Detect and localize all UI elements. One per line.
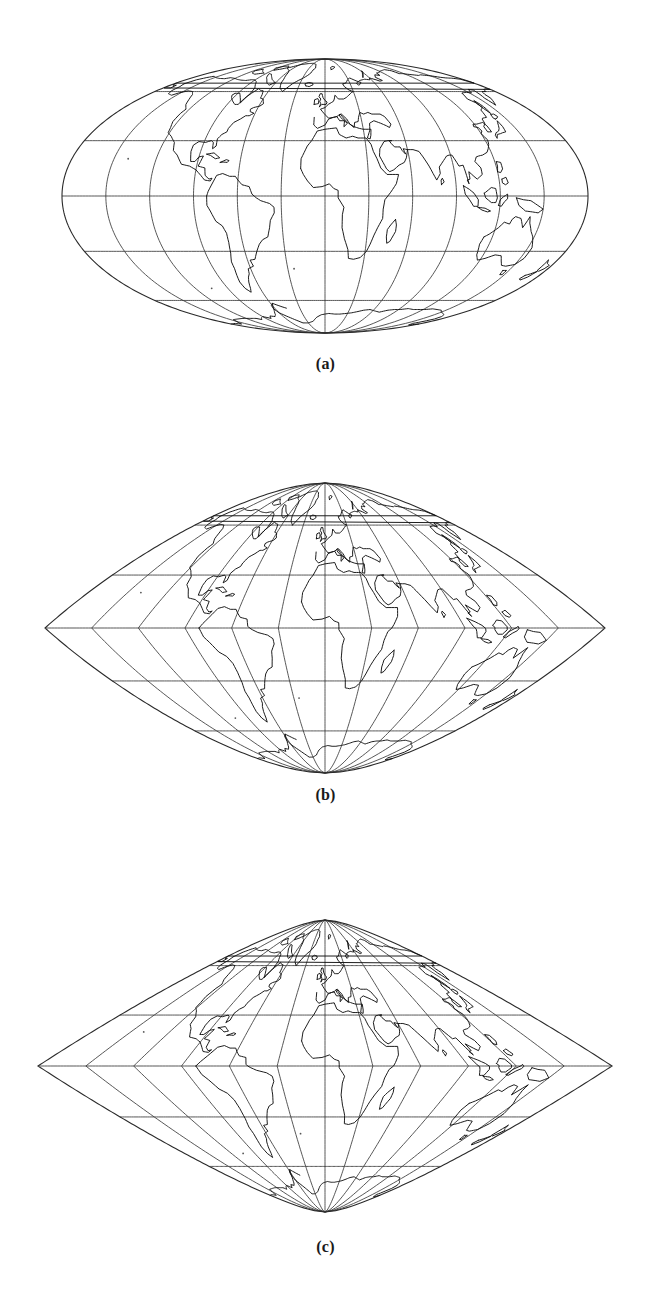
map-c-coastline-16 xyxy=(483,1076,493,1080)
map-b-coastline-22 xyxy=(456,648,528,696)
map-c-coastline-26 xyxy=(443,1050,447,1056)
map-c-speck-1 xyxy=(300,1133,302,1135)
map-b-coastlines xyxy=(187,491,546,760)
map-a-speck-1 xyxy=(293,268,295,270)
world-map-b xyxy=(0,440,651,795)
map-b-speck-2 xyxy=(234,717,236,719)
world-map-a xyxy=(0,20,651,360)
map-b-coastline-25 xyxy=(483,701,502,710)
map-panel-c xyxy=(0,875,651,1235)
map-b-coastline-20 xyxy=(486,595,497,606)
map-c-speck-0 xyxy=(143,1031,145,1033)
panel-caption-b: (b) xyxy=(0,786,651,804)
panel-caption-a: (a) xyxy=(0,355,651,373)
map-b-graticule xyxy=(45,483,605,773)
map-c-coastline-20 xyxy=(484,1035,496,1045)
map-panel-b xyxy=(0,440,651,795)
map-a-coastline-7 xyxy=(301,128,399,259)
map-a-coastline-9 xyxy=(164,70,496,184)
map-a-coastline-4 xyxy=(274,66,289,70)
map-a-coastline-13 xyxy=(490,114,497,119)
map-c-coastline-29 xyxy=(347,940,349,948)
map-a-coastline-16 xyxy=(478,207,491,212)
map-b-coastline-10 xyxy=(320,527,326,541)
map-c-coastline-10 xyxy=(321,968,327,982)
map-b-speck-1 xyxy=(298,697,300,699)
map-c-coastline-11 xyxy=(317,973,320,979)
panel-caption-c: (c) xyxy=(0,1238,651,1256)
map-b-coastline-26 xyxy=(442,611,446,617)
map-c-coastline-27 xyxy=(218,1027,228,1032)
map-a-coastline-19 xyxy=(516,198,543,213)
map-a-coastline-8 xyxy=(386,219,396,243)
map-b-coastline-12 xyxy=(468,555,480,572)
map-a-coastline-28 xyxy=(220,160,229,163)
map-a-coastline-3 xyxy=(252,69,264,74)
figure-plate: (a) (b) (c) xyxy=(0,0,651,1314)
map-b-coastline-7 xyxy=(302,563,398,689)
map-a-coastline-26 xyxy=(441,178,444,185)
map-a-coastline-17 xyxy=(484,188,497,203)
map-b-coastline-8 xyxy=(381,650,394,673)
map-c-speck-2 xyxy=(242,1153,244,1155)
map-b-coastline-17 xyxy=(493,620,508,634)
map-c-coastline-6 xyxy=(196,1046,274,1158)
map-a-coastline-12 xyxy=(495,121,505,138)
map-c-coastline-19 xyxy=(527,1068,548,1082)
map-b-coastline-29 xyxy=(351,501,352,509)
map-a-coastline-10 xyxy=(319,94,327,107)
map-a-coastline-30 xyxy=(331,66,335,69)
world-map-c xyxy=(0,875,651,1235)
map-a-coastline-22 xyxy=(477,217,533,267)
map-a-coastline-29 xyxy=(362,71,363,78)
map-b-coastline-4 xyxy=(288,495,299,501)
map-a-coastline-0 xyxy=(168,76,263,181)
map-c-coastline-13 xyxy=(451,989,458,994)
map-a-coastline-21 xyxy=(502,177,508,184)
map-b-coastline-16 xyxy=(481,639,492,643)
map-b-coastline-19 xyxy=(524,630,546,644)
map-c-coastline-17 xyxy=(496,1058,511,1072)
map-a-coastline-27 xyxy=(207,153,220,159)
map-a-coastline-11 xyxy=(314,99,319,105)
map-b-coastline-11 xyxy=(316,533,320,539)
map-b-coastline-21 xyxy=(502,610,511,617)
map-b-speck-0 xyxy=(140,592,142,594)
map-b-coastline-30 xyxy=(329,495,332,499)
map-b-coastline-0 xyxy=(187,508,278,614)
map-a-speck-0 xyxy=(127,158,129,160)
map-b-coastline-27 xyxy=(216,587,227,593)
map-a-speck-2 xyxy=(211,287,213,289)
map-panel-a xyxy=(0,20,651,360)
map-b-coastline-28 xyxy=(226,593,235,596)
map-c-coastline-28 xyxy=(227,1033,236,1036)
map-b-coastline-13 xyxy=(460,549,467,554)
map-c-graticule xyxy=(38,920,612,1212)
map-c-coastline-30 xyxy=(328,934,330,939)
map-c-coastline-8 xyxy=(379,1087,394,1109)
